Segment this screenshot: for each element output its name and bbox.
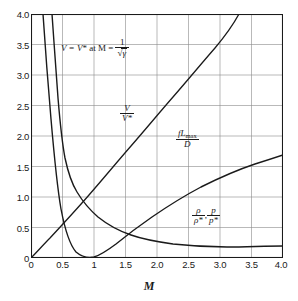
y-tick-label: 2.5 [2,102,29,112]
annotation-denominator: √γ [115,48,129,58]
x-axis-tick-labels: 0 0.5 1 1.5 2.0 2.5 3.0 3.5 4.0 [31,260,283,276]
x-tick-label: 1 [92,260,97,270]
y-tick-label: 0.5 [2,224,29,234]
p-denominator: p* [207,216,220,225]
annotation-v-equals-vstar: V = V* at M = 1 √γ [61,38,129,59]
y-tick-label: 3.5 [2,41,29,51]
y-tick-label: 3.0 [2,71,29,81]
x-tick-label: 4.0 [275,260,287,270]
rho-ratio-fraction: ρ ρ* [192,206,205,226]
x-tick-label: 2.0 [151,260,163,270]
rho-denominator: ρ* [192,216,205,225]
y-tick-label: 1.5 [2,163,29,173]
x-tick-label: 3.0 [214,260,226,270]
curve-label-v-over-vstar: V V* [120,104,134,124]
annotation-numerator: 1 [115,38,129,48]
flmax-over-d-fraction: fLmax D [176,129,199,150]
y-tick-label: 4.0 [2,10,29,20]
p-ratio-fraction: p p* [207,206,220,226]
flmax-over-d-denominator: D [176,140,199,149]
x-tick-label: 1.5 [119,260,131,270]
x-tick-label: 0.5 [56,260,68,270]
v-over-vstar-denominator: V* [120,114,134,123]
x-tick-label: 3.5 [245,260,257,270]
x-tick-label: 0 [29,260,34,270]
gamma-symbol: γ [121,48,127,58]
y-axis-tick-labels: 4.0 3.5 3.0 2.5 2.0 1.5 1.0 0.5 0 [0,14,29,258]
fanno-flow-chart: 4.0 3.5 3.0 2.5 2.0 1.5 1.0 0.5 0 [0,0,298,301]
v-over-vstar-fraction: V V* [120,104,134,124]
curve-label-flmax-over-d: fLmax D [176,129,199,150]
annotation-mid: at M = [89,43,113,53]
y-tick-label: 0 [2,254,29,264]
annotation-fraction: 1 √γ [115,38,129,59]
x-axis-title: M [0,279,298,294]
y-tick-label: 2.0 [2,132,29,142]
max-subscript: max [186,132,197,139]
y-tick-label: 1.0 [2,193,29,203]
curve-label-p-and-rho-ratios: ρ ρ* , p p* [192,206,220,226]
x-tick-label: 2.5 [182,260,194,270]
annotation-star: * [82,43,87,53]
annotation-lhs: V = V [61,43,82,53]
